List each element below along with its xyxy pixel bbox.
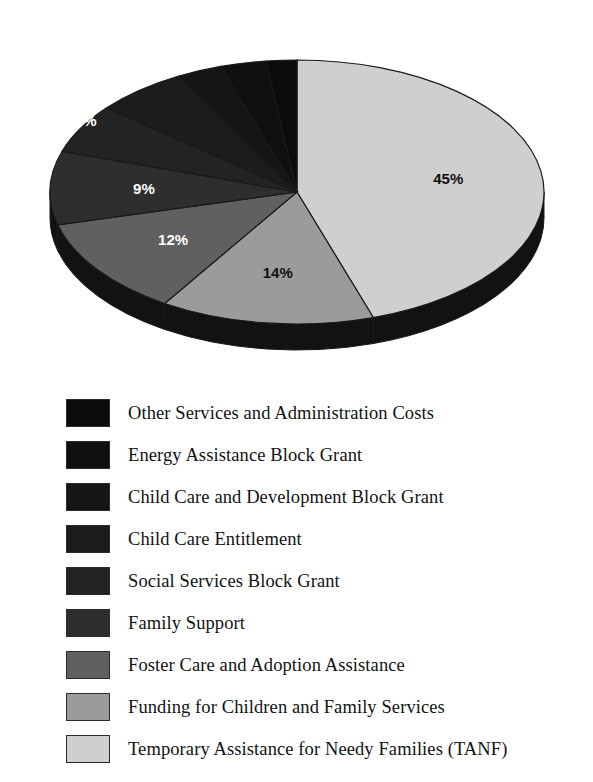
legend-item[interactable]: Child Care and Development Block Grant [0,476,593,518]
legend-color-swatch [66,567,110,595]
pie-slice-label: 9% [133,180,155,197]
legend-item-label: Energy Assistance Block Grant [128,445,362,466]
pie-chart-figure: 45%14%12%9%6%6%3%3%2% [0,0,593,390]
pie-slice-label: 2% [271,35,293,52]
legend-color-swatch [66,609,110,637]
pie-slice-label: 6% [75,112,97,129]
legend-item-label: Family Support [128,613,245,634]
pie-slice-label: 6% [122,61,144,78]
legend-item-label: Social Services Block Grant [128,571,340,592]
legend-item[interactable]: Child Care Entitlement [0,518,593,560]
legend-item[interactable]: Family Support [0,602,593,644]
legend-color-swatch [66,483,110,511]
pie-slice-label: 3% [230,29,252,46]
legend-item-label: Child Care Entitlement [128,529,302,550]
legend-color-swatch [66,399,110,427]
legend-item-label: Temporary Assistance for Needy Families … [128,739,507,760]
chart-legend: Other Services and Administration CostsE… [0,392,593,770]
legend-item[interactable]: Foster Care and Adoption Assistance [0,644,593,686]
pie-slice-label: 14% [263,264,293,281]
legend-color-swatch [66,693,110,721]
pie-slice-label: 3% [181,34,203,51]
legend-item[interactable]: Temporary Assistance for Needy Families … [0,728,593,770]
legend-item[interactable]: Other Services and Administration Costs [0,392,593,434]
legend-item-label: Funding for Children and Family Services [128,697,445,718]
legend-item-label: Child Care and Development Block Grant [128,487,444,508]
legend-color-swatch [66,651,110,679]
legend-color-swatch [66,441,110,469]
legend-item[interactable]: Social Services Block Grant [0,560,593,602]
legend-item-label: Foster Care and Adoption Assistance [128,655,405,676]
pie-top-faces [50,60,544,324]
pie-slice-label: 45% [433,170,463,187]
legend-item[interactable]: Funding for Children and Family Services [0,686,593,728]
legend-item-label: Other Services and Administration Costs [128,403,434,424]
legend-color-swatch [66,735,110,763]
pie-chart-svg: 45%14%12%9%6%6%3%3%2% [0,0,593,390]
legend-item[interactable]: Energy Assistance Block Grant [0,434,593,476]
legend-color-swatch [66,525,110,553]
pie-slice-label: 12% [158,231,188,248]
